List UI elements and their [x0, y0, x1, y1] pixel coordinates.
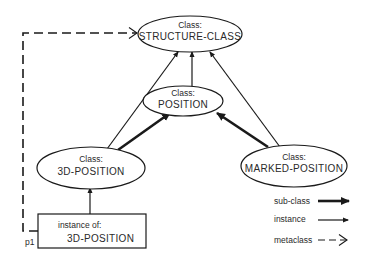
instance-id-label: p1: [25, 237, 35, 247]
legend-label: sub-class: [274, 196, 310, 206]
node-kind-label: Class:: [178, 20, 202, 30]
node-instance-p1[interactable]: instance of: 3D-POSITION: [38, 214, 146, 248]
legend-label: instance: [274, 214, 306, 224]
node-kind-label: Class:: [171, 88, 195, 98]
edge-3d-position-subclass-position: [118, 113, 170, 150]
node-name-label: 3D-POSITION: [57, 166, 124, 177]
legend-item-instance: instance: [274, 214, 348, 224]
legend-item-sub-class: sub-class: [274, 196, 349, 206]
node-marked-position[interactable]: Class: MARKED-POSITION: [241, 145, 347, 187]
node-name-label: MARKED-POSITION: [245, 163, 343, 174]
node-kind-label: Class:: [79, 154, 103, 164]
node-3d-position[interactable]: Class: 3D-POSITION: [37, 147, 145, 189]
node-kind-label: Class:: [282, 152, 306, 162]
node-name-label: STRUCTURE-CLASS: [139, 31, 241, 42]
instance-class-label: 3D-POSITION: [67, 233, 134, 244]
edge-marked-position-subclass-position: [217, 113, 268, 147]
instance-kind-label: instance of:: [58, 220, 101, 230]
node-name-label: POSITION: [158, 99, 208, 110]
class-hierarchy-diagram: Class: STRUCTURE-CLASS Class: POSITION C…: [0, 0, 366, 260]
legend-label: metaclass: [274, 235, 312, 245]
node-structure-class[interactable]: Class: STRUCTURE-CLASS: [138, 16, 242, 52]
node-position[interactable]: Class: POSITION: [143, 86, 223, 116]
legend-item-metaclass: metaclass: [274, 235, 347, 245]
legend: sub-class instance metaclass: [274, 196, 349, 245]
